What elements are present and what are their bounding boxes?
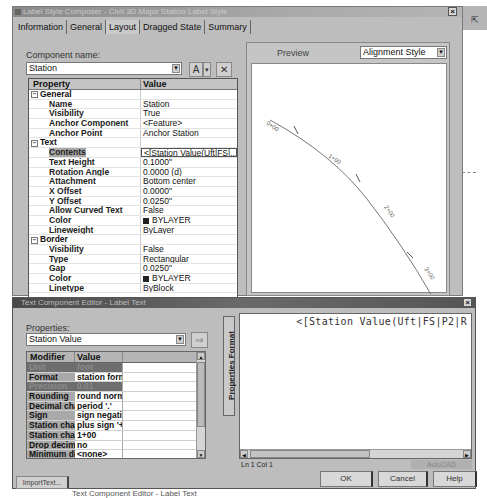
- title-bar[interactable]: Text Component Editor - Label Text ×: [13, 298, 475, 308]
- table-row[interactable]: Formatstation form: [27, 373, 205, 383]
- cursor-position-status: Ln 1 Col 1: [241, 461, 273, 468]
- close-button[interactable]: ×: [463, 298, 472, 307]
- table-row-selected[interactable]: Contents<[Station Value(Uft|FS|...: [29, 148, 237, 158]
- contents-value-field[interactable]: <[Station Value(Uft|FS|...: [141, 148, 237, 157]
- table-row[interactable]: Precision0.01: [27, 382, 205, 392]
- properties-select[interactable]: Station Value ▼: [26, 333, 186, 346]
- insert-property-button[interactable]: ⇨: [191, 332, 208, 348]
- table-row[interactable]: Unitfoot: [27, 363, 205, 373]
- scroll-down-icon[interactable]: ▼: [197, 450, 205, 458]
- collapse-icon[interactable]: −: [31, 140, 38, 147]
- group-row-text[interactable]: −Text: [29, 138, 237, 148]
- font-status: AutoCAD: [411, 460, 472, 469]
- preview-style-select[interactable]: Alignment Style ▼: [360, 46, 447, 59]
- preview-label: Preview: [277, 48, 309, 58]
- value-column-header: Value: [141, 79, 237, 89]
- table-row[interactable]: VisibilityTrue: [29, 109, 237, 119]
- horizontal-scrollbar[interactable]: ◀ ▶: [240, 449, 471, 458]
- color-swatch: [143, 276, 149, 282]
- vertical-scrollbar[interactable]: ▲ ▼: [196, 352, 205, 458]
- help-button[interactable]: Help: [433, 471, 477, 487]
- dock-icon[interactable]: ⇱: [471, 15, 479, 25]
- table-row[interactable]: Y Offset0.0250": [29, 197, 237, 207]
- add-component-dropdown[interactable]: ▾: [203, 62, 211, 77]
- grid-header: Property Value: [29, 79, 237, 90]
- table-row[interactable]: AttachmentBottom center: [29, 177, 237, 187]
- ok-button[interactable]: OK: [320, 471, 373, 487]
- value-column-header: Value: [75, 352, 123, 362]
- close-button[interactable]: ×: [448, 7, 457, 16]
- cancel-button[interactable]: Cancel: [378, 471, 428, 487]
- table-row[interactable]: VisibilityFalse: [29, 245, 237, 255]
- table-row[interactable]: TypeRectangular: [29, 255, 237, 265]
- chevron-down-icon[interactable]: ▼: [172, 64, 180, 73]
- component-name-select[interactable]: Station ▼: [26, 62, 182, 75]
- table-row[interactable]: Roundinground norm: [27, 392, 205, 402]
- tab-layout[interactable]: Layout: [106, 20, 140, 34]
- table-row[interactable]: Gap0.0250": [29, 264, 237, 274]
- scroll-thumb[interactable]: [250, 450, 370, 458]
- alignment-preview-drawing: 0+00 1+00 2+00 3+00: [252, 64, 448, 294]
- table-row[interactable]: LineweightByLayer: [29, 226, 237, 236]
- scroll-up-icon[interactable]: ▲: [197, 352, 205, 360]
- tab-summary[interactable]: Summary: [205, 20, 251, 34]
- scroll-left-icon[interactable]: ◀: [240, 450, 248, 458]
- window-title: Label Style Composer - Civil 3D Major St…: [23, 7, 228, 17]
- text-editor[interactable]: <[Station Value(Uft|FS|P2|R ◀ ▶: [239, 313, 472, 459]
- table-row[interactable]: Text Height0.1000": [29, 158, 237, 168]
- table-row[interactable]: Decimal chaperiod '.': [27, 402, 205, 412]
- table-row[interactable]: Drop decimno: [27, 441, 205, 451]
- scroll-right-icon[interactable]: ▶: [463, 450, 471, 458]
- component-name-value: Station: [29, 63, 57, 73]
- delete-component-button[interactable]: ✕: [216, 62, 232, 77]
- table-row[interactable]: Allow Curved TextFalse: [29, 206, 237, 216]
- collapse-icon[interactable]: −: [31, 91, 38, 98]
- table-row[interactable]: Minimum dis<none>: [27, 450, 205, 459]
- tab-properties-format[interactable]: Properties Format: [223, 316, 235, 416]
- add-component-button[interactable]: A: [189, 62, 203, 77]
- component-name-label: Component name:: [26, 50, 100, 60]
- tab-general[interactable]: General: [67, 20, 106, 34]
- table-row[interactable]: Station charplus sign '+': [27, 421, 205, 431]
- title-bar[interactable]: Label Style Composer - Civil 3D Major St…: [13, 7, 462, 17]
- side-toolbar: ⇱: [463, 6, 487, 30]
- figure-caption: Text Component Editor - Label Text: [72, 489, 197, 498]
- grid-header: Modifier Value: [27, 352, 205, 363]
- tab-dragged-state[interactable]: Dragged State: [140, 20, 205, 34]
- table-row[interactable]: Signsign negativ: [27, 411, 205, 421]
- table-row[interactable]: X Offset0.0000": [29, 187, 237, 197]
- table-row[interactable]: Anchor PointAnchor Station: [29, 129, 237, 139]
- label-style-composer-dialog: Label Style Composer - Civil 3D Major St…: [12, 6, 463, 296]
- tab-information[interactable]: Information: [15, 20, 67, 34]
- table-row[interactable]: LinetypeByBlock: [29, 284, 237, 294]
- import-text-button[interactable]: ImportText...: [16, 476, 69, 489]
- scroll-thumb[interactable]: [197, 362, 205, 427]
- chevron-down-icon[interactable]: ▼: [437, 48, 445, 57]
- group-row-general[interactable]: −General: [29, 90, 237, 100]
- station-label: 3+00: [423, 266, 436, 281]
- table-row[interactable]: ColorBYLAYER: [29, 274, 237, 284]
- app-icon: [15, 9, 21, 15]
- station-label: 0+00: [265, 120, 280, 133]
- properties-label: Properties:: [26, 323, 70, 333]
- table-row[interactable]: Anchor Component<Feature>: [29, 119, 237, 129]
- chevron-down-icon[interactable]: ▼: [176, 335, 184, 344]
- window-title: Text Component Editor - Label Text: [21, 298, 146, 308]
- group-row-border[interactable]: −Border: [29, 235, 237, 245]
- preview-pane: Preview Alignment Style ▼ 0+00 1+00 2+00…: [246, 42, 450, 296]
- table-row[interactable]: NameStation: [29, 100, 237, 110]
- collapse-icon[interactable]: −: [31, 237, 38, 244]
- text-component-editor-dialog: Text Component Editor - Label Text × Pro…: [12, 297, 476, 489]
- table-row[interactable]: Rotation Angle0.0000 (d): [29, 168, 237, 178]
- table-row[interactable]: ColorBYLAYER: [29, 216, 237, 226]
- table-row[interactable]: Station char1+00: [27, 431, 205, 441]
- preview-canvas[interactable]: 0+00 1+00 2+00 3+00: [251, 63, 447, 293]
- station-label: 2+00: [383, 204, 396, 219]
- color-swatch: [143, 218, 149, 224]
- background-drawing-line: [462, 172, 476, 173]
- modifier-column-header: Modifier: [27, 352, 75, 362]
- tab-strip: Information General Layout Dragged State…: [15, 20, 251, 34]
- property-column-header: Property: [29, 79, 141, 89]
- property-grid: Property Value −General NameStation Visi…: [28, 78, 238, 299]
- editor-content[interactable]: <[Station Value(Uft|FS|P2|R: [296, 316, 467, 327]
